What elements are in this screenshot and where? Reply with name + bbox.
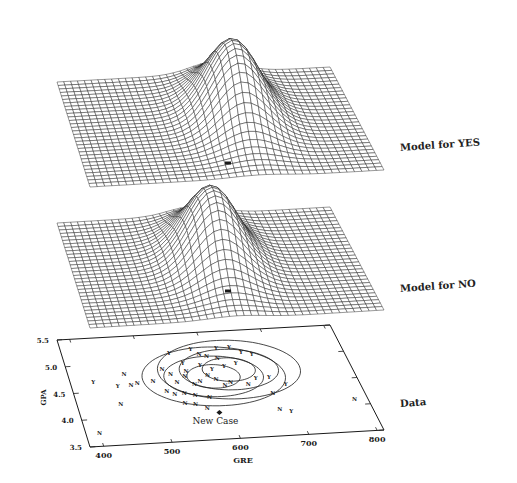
no-point: N	[205, 405, 210, 411]
figure-canvas: 4005006007008003.54.04.55.05.5GREGPAYYYY…	[0, 0, 517, 483]
yes-point: Y	[166, 350, 171, 356]
no-point: N	[196, 351, 201, 357]
no-point: N	[150, 378, 155, 384]
no-point: N	[197, 378, 202, 384]
y-tick-label: 4.5	[53, 390, 65, 399]
no-point: N	[215, 355, 220, 361]
y-tick-label: 5.0	[45, 363, 57, 372]
no-point: N	[183, 368, 188, 374]
y-tick-label: 3.5	[70, 443, 82, 452]
x-tick-label: 800	[369, 434, 386, 444]
data-scatter-plot: 4005006007008003.54.04.55.05.5GREGPAYYYY…	[37, 325, 386, 465]
yes-point: Y	[197, 362, 202, 368]
x-axis-label: GRE	[233, 455, 253, 465]
yes-point: Y	[249, 351, 254, 357]
yes-point: Y	[238, 349, 243, 355]
no-point: N	[182, 390, 187, 396]
no-point: N	[192, 381, 197, 387]
yes-point: Y	[266, 374, 271, 380]
no-point: N	[121, 371, 126, 377]
no-point: N	[352, 396, 357, 402]
x-tick-label: 700	[300, 438, 317, 448]
no-point: N	[174, 379, 179, 385]
label-data: Data	[400, 396, 427, 409]
y-tick-label: 5.5	[37, 336, 49, 345]
no-model-surface	[57, 185, 384, 328]
yes-point: Y	[283, 381, 288, 387]
no-point: N	[168, 371, 173, 377]
yes-point: Y	[90, 379, 95, 385]
yes-point: Y	[180, 360, 185, 366]
no-point: N	[172, 391, 177, 397]
no-point: N	[193, 401, 198, 407]
new-case-marker-icon	[225, 162, 231, 165]
no-point: N	[164, 388, 169, 394]
no-point: N	[270, 390, 275, 396]
no-point: N	[207, 394, 212, 400]
yes-point: Y	[187, 346, 192, 352]
no-point: N	[160, 366, 165, 372]
no-point: N	[277, 406, 282, 412]
yes-point: Y	[115, 383, 120, 389]
yes-point: Y	[221, 363, 226, 369]
x-tick-label: 400	[95, 450, 112, 460]
new-case-marker-icon	[216, 410, 222, 415]
no-point: N	[204, 353, 209, 359]
yes-point: Y	[288, 408, 293, 414]
y-axis-label: GPA	[39, 389, 48, 406]
yes-point: Y	[233, 360, 238, 366]
no-point: N	[193, 392, 198, 398]
no-point: N	[97, 430, 102, 436]
no-point: N	[182, 373, 187, 379]
new-case-marker-icon	[225, 290, 231, 293]
yes-point: Y	[226, 344, 231, 350]
x-tick-label: 600	[232, 442, 249, 452]
yes-point: Y	[253, 375, 258, 381]
no-point: N	[118, 401, 123, 407]
no-point: N	[135, 380, 140, 386]
new-case-label: New Case	[192, 416, 238, 426]
y-tick-label: 4.0	[62, 416, 74, 425]
x-tick-label: 500	[164, 446, 181, 456]
no-point: N	[228, 379, 233, 385]
yes-point: Y	[213, 345, 218, 351]
no-point: N	[205, 372, 210, 378]
no-point: N	[246, 381, 251, 387]
no-point: N	[213, 376, 218, 382]
no-point: N	[128, 382, 133, 388]
yes-model-surface	[57, 39, 384, 187]
no-point: N	[183, 400, 188, 406]
no-point: N	[223, 382, 228, 388]
